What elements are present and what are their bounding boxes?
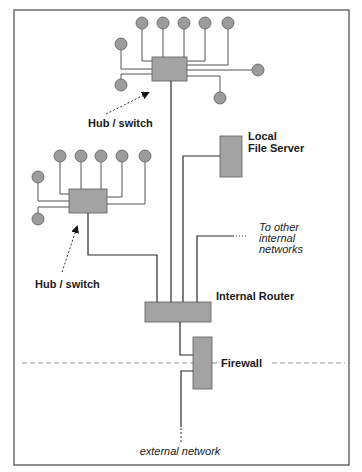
hub-top-pointer-arrow [106,93,148,114]
client-node [139,150,151,162]
client-node [32,171,44,183]
client-node [75,150,87,162]
hub-top-group: Hub / switch [88,17,264,129]
external-network-label: external network [140,445,221,457]
hub-switch-top [152,57,187,81]
client-node [115,38,127,50]
internal-router [145,302,211,322]
client-node [32,213,44,225]
router-label: Internal Router [216,290,295,302]
other-networks-label-line3: networks [259,243,304,255]
client-node [95,150,107,162]
network-diagram: Hub / switch Hub / switch Local File Ser… [0,0,362,472]
client-node [252,64,264,76]
firewall-label: Firewall [221,357,262,369]
client-node [116,150,128,162]
hub-left-pointer-arrow [62,227,77,272]
client-node [54,150,66,162]
firewall [193,337,212,389]
client-node [157,17,169,29]
file-server-label-line1: Local [248,130,277,142]
client-node [199,17,211,29]
hub-left-label: Hub / switch [35,278,100,290]
hub-left-group: Hub / switch [32,150,151,290]
client-node [214,92,226,104]
hub-switch-left [69,189,107,213]
client-node [222,17,234,29]
link-file-server-to-router [183,156,220,302]
client-node [178,17,190,29]
local-file-server [220,136,242,177]
file-server-label-line2: File Server [248,142,305,154]
hub-top-label: Hub / switch [88,117,153,129]
link-firewall-to-external [181,371,193,427]
client-node [136,17,148,29]
client-node [115,79,127,91]
link-router-to-firewall [180,322,193,355]
